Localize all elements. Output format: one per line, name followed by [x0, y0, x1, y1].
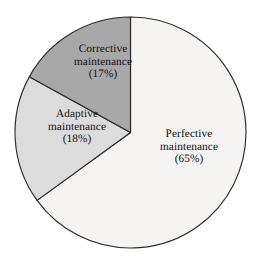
pie-label-perfective-value: (65%): [137, 153, 241, 166]
pie-label-adaptive-line2: maintenance: [24, 121, 130, 134]
pie-chart-figure: Corrective maintenance (17%) Adaptive ma…: [0, 0, 254, 261]
pie-label-corrective-line1: Corrective: [50, 43, 156, 56]
pie-label-adaptive-maintenance: Adaptive maintenance (18%): [24, 108, 130, 146]
pie-label-corrective-line2: maintenance: [50, 56, 156, 69]
pie-label-adaptive-value: (18%): [24, 133, 130, 146]
pie-label-perfective-maintenance: Perfective maintenance (65%): [137, 128, 241, 166]
pie-label-corrective-maintenance: Corrective maintenance (17%): [50, 43, 156, 81]
pie-label-perfective-line2: maintenance: [137, 141, 241, 154]
pie-label-adaptive-line1: Adaptive: [24, 108, 130, 121]
pie-label-perfective-line1: Perfective: [137, 128, 241, 141]
pie-label-corrective-value: (17%): [50, 68, 156, 81]
